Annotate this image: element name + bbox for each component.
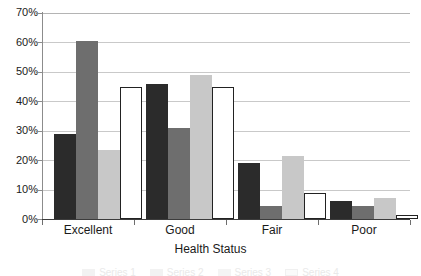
bar-poor-series2 [352, 206, 374, 219]
y-tick-label: 10% [2, 184, 38, 195]
bar-good-series1 [146, 84, 168, 219]
x-category-label-poor: Poor [318, 224, 410, 237]
bar-fair-series3 [282, 156, 304, 219]
bar-good-series2 [168, 128, 190, 219]
bar-excellent-series3 [98, 150, 120, 219]
bar-excellent-series1 [54, 134, 76, 219]
y-tick-label: 0% [2, 214, 38, 225]
bar-good-series4 [212, 87, 234, 219]
bar-excellent-series2 [76, 41, 98, 219]
legend-label: Series 2 [167, 268, 204, 276]
bar-fair-series2 [260, 206, 282, 219]
x-axis-tick [410, 220, 411, 225]
y-tick-label: 50% [2, 66, 38, 77]
legend-label: Series 4 [302, 268, 339, 276]
bar-poor-series3 [374, 198, 396, 219]
y-tick-label: 20% [2, 155, 38, 166]
y-tick-label: 60% [2, 37, 38, 48]
y-tick-label: 70% [2, 7, 38, 18]
legend-swatch-icon [150, 269, 163, 276]
bar-good-series3 [190, 75, 212, 219]
legend-label: Series 1 [99, 268, 136, 276]
legend: Series 1 Series 2 Series 3 Series 4 [0, 268, 421, 276]
bar-fair-series4 [304, 193, 326, 219]
legend-swatch-icon [82, 269, 95, 276]
bar-fair-series1 [238, 163, 260, 219]
x-category-label-fair: Fair [226, 224, 318, 237]
legend-label: Series 3 [235, 268, 272, 276]
bar-excellent-series4 [120, 87, 142, 219]
legend-item-series2: Series 2 [150, 268, 204, 276]
legend-swatch-icon [218, 269, 231, 276]
bar-poor-series1 [330, 201, 352, 219]
legend-item-series4: Series 4 [285, 268, 339, 276]
x-category-label-excellent: Excellent [42, 224, 134, 237]
gridline-70 [42, 13, 410, 14]
x-axis-title: Health Status [0, 243, 421, 256]
legend-item-series1: Series 1 [82, 268, 136, 276]
plot-area [42, 13, 410, 219]
x-category-label-good: Good [134, 224, 226, 237]
y-axis-line [42, 12, 43, 220]
legend-swatch-icon [285, 269, 298, 276]
legend-item-series3: Series 3 [218, 268, 272, 276]
y-tick-label: 30% [2, 125, 38, 136]
y-axis-labels: 70% 60% 50% 40% 30% 20% 10% 0% [0, 0, 38, 273]
y-tick-label: 40% [2, 96, 38, 107]
